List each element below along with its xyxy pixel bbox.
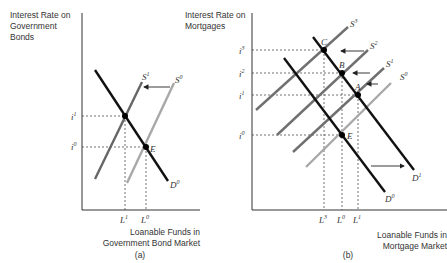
b-label-S2: S2 xyxy=(370,40,378,51)
b-ylabel-line1: Interest Rate on xyxy=(185,10,246,20)
a-tick-i0: i0 xyxy=(71,141,77,152)
b-label-D0: D0 xyxy=(384,193,395,204)
b-label-E: E xyxy=(346,131,353,141)
a-xlabel-line2: Government Bond Market xyxy=(103,238,201,248)
b-point-A xyxy=(355,92,361,98)
a-point-i1 xyxy=(122,113,128,119)
b-xlabel-line2: Mortgage Market xyxy=(383,241,447,251)
b-label-S0: S0 xyxy=(400,71,408,82)
b-tick-i3: i3 xyxy=(239,45,245,56)
panel-b: Interest Rate on Mortgages xyxy=(185,10,447,260)
b-tick-i0: i0 xyxy=(239,130,245,141)
b-tick-L0: L0 xyxy=(336,214,345,225)
a-label-E: E xyxy=(149,144,156,154)
b-tick-i1: i1 xyxy=(239,90,245,101)
b-curve-D0 xyxy=(284,58,385,192)
a-tick-L0: L0 xyxy=(140,214,149,225)
a-label-S1: S1 xyxy=(142,71,150,82)
b-label-S3: S3 xyxy=(350,18,358,29)
b-curve-S1 xyxy=(293,68,384,152)
b-tick-i2: i2 xyxy=(239,68,245,79)
figure: Interest Rate on Government Bonds S1 S0 … xyxy=(0,0,447,263)
a-point-E xyxy=(143,144,149,150)
a-label-D0: D0 xyxy=(169,179,180,190)
a-ylabel-line3: Bonds xyxy=(10,32,34,42)
a-tick-L1: L1 xyxy=(119,214,128,225)
a-panel-label: (a) xyxy=(135,250,146,260)
b-label-D1: D1 xyxy=(411,172,422,183)
b-point-C xyxy=(321,47,327,53)
a-label-S0: S0 xyxy=(175,74,183,85)
a-ylabel-line1: Interest Rate on xyxy=(10,10,71,20)
b-label-A: A xyxy=(354,82,361,92)
b-label-C: C xyxy=(321,37,328,47)
b-point-E xyxy=(339,132,345,138)
a-xlabel-line1: Loanable Funds in xyxy=(130,227,200,237)
b-ylabel-line2: Mortgages xyxy=(185,21,225,31)
b-point-B xyxy=(339,70,345,76)
panel-a: Interest Rate on Government Bonds S1 S0 … xyxy=(10,10,201,260)
b-tick-L3: L3 xyxy=(318,214,327,225)
b-curve-D1 xyxy=(313,37,414,170)
b-label-S1: S1 xyxy=(386,58,394,69)
b-tick-L1: L1 xyxy=(352,214,361,225)
b-panel-label: (b) xyxy=(343,250,354,260)
b-xlabel-line1: Loanable Funds in xyxy=(377,230,447,240)
a-tick-i1: i1 xyxy=(71,111,77,122)
a-ylabel-line2: Government xyxy=(10,21,57,31)
b-label-B: B xyxy=(339,60,345,70)
b-curve-S3 xyxy=(256,27,348,110)
